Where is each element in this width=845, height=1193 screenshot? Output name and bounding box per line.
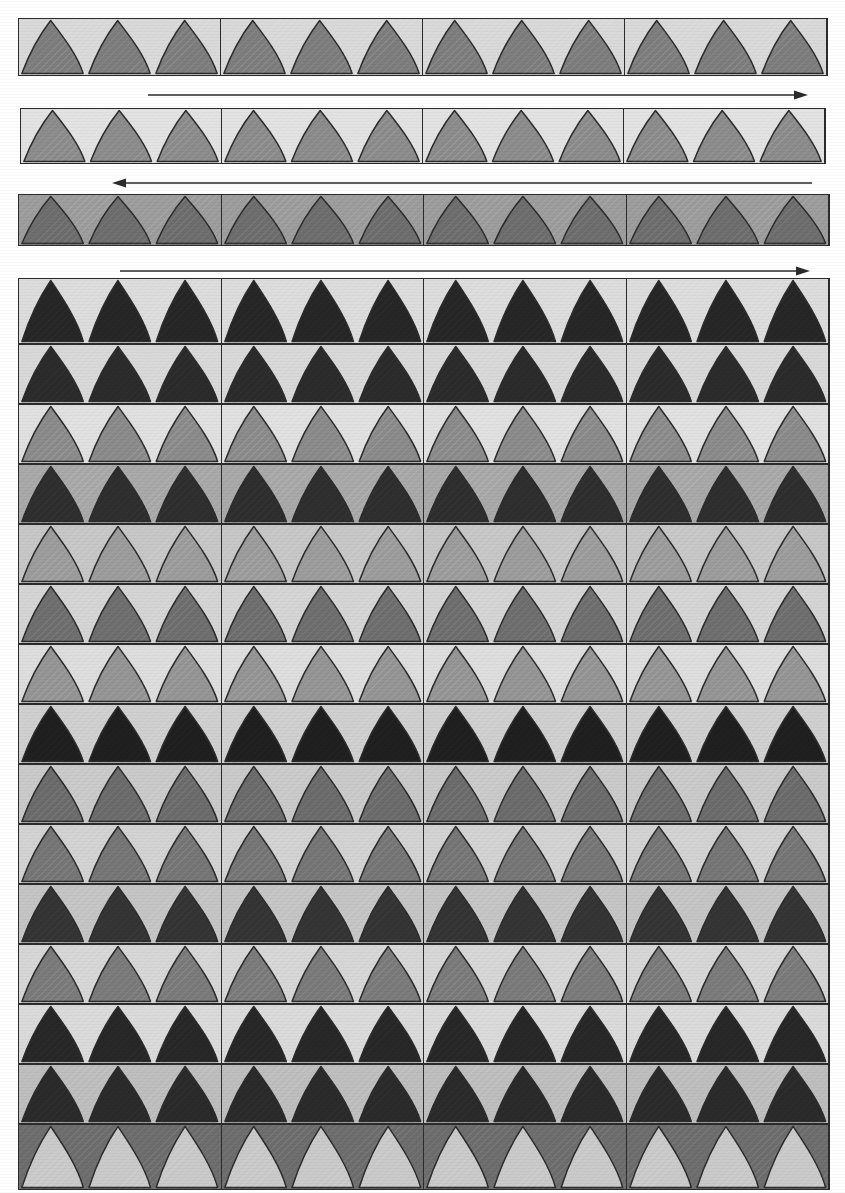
- grid-row-8: [18, 704, 830, 764]
- motif-segment: [627, 465, 830, 523]
- grid-row-1: [18, 278, 830, 344]
- motif-segment: [222, 945, 425, 1003]
- motif-segment: [627, 645, 830, 703]
- motif-segment: [19, 405, 222, 463]
- grid-row-13: [18, 1004, 830, 1064]
- motif-segment: [627, 1065, 830, 1123]
- grid-row-2: [18, 344, 830, 404]
- motif-segment: [19, 1005, 222, 1063]
- motif-segment: [627, 945, 830, 1003]
- motif-segment: [627, 705, 830, 763]
- motif-segment: [221, 19, 423, 75]
- motif-segment: [424, 465, 627, 523]
- motif-segment: [19, 945, 222, 1003]
- motif-segment: [424, 279, 627, 343]
- motif-segment: [424, 705, 627, 763]
- grid-row-5: [18, 524, 830, 584]
- motif-segment: [19, 19, 221, 75]
- motif-segment: [424, 945, 627, 1003]
- motif-segment: [627, 345, 830, 403]
- motif-segment: [19, 345, 222, 403]
- motif-segment: [424, 885, 627, 943]
- motif-segment: [19, 1065, 222, 1123]
- motif-segment: [222, 1005, 425, 1063]
- direction-arrow-left: [112, 176, 812, 190]
- motif-segment: [222, 825, 425, 883]
- motif-segment: [19, 1125, 222, 1189]
- figure-plate: [0, 0, 845, 1193]
- grid-row-11: [18, 884, 830, 944]
- motif-segment: [424, 1005, 627, 1063]
- motif-segment: [424, 1065, 627, 1123]
- top-band-3: [18, 194, 830, 246]
- grid-row-7: [18, 644, 830, 704]
- motif-segment: [222, 195, 425, 245]
- motif-segment: [625, 19, 827, 75]
- motif-segment: [222, 405, 425, 463]
- motif-segment: [624, 109, 825, 163]
- motif-segment: [424, 585, 627, 643]
- motif-segment: [423, 109, 624, 163]
- motif-segment: [424, 525, 627, 583]
- motif-segment: [627, 885, 830, 943]
- motif-segment: [424, 195, 627, 245]
- motif-segment: [19, 765, 222, 823]
- motif-segment: [627, 1125, 830, 1189]
- motif-segment: [222, 765, 425, 823]
- motif-segment: [222, 1065, 425, 1123]
- motif-segment: [424, 825, 627, 883]
- direction-arrow-right: [148, 88, 808, 102]
- grid-row-15: [18, 1124, 830, 1190]
- motif-segment: [222, 109, 423, 163]
- direction-arrow-right: [120, 264, 810, 278]
- motif-segment: [423, 19, 625, 75]
- motif-segment: [19, 705, 222, 763]
- motif-segment: [19, 585, 222, 643]
- motif-segment: [627, 1005, 830, 1063]
- grid-row-4: [18, 464, 830, 524]
- motif-segment: [627, 825, 830, 883]
- motif-segment: [222, 465, 425, 523]
- motif-segment: [19, 279, 222, 343]
- motif-segment: [222, 279, 425, 343]
- motif-segment: [627, 405, 830, 463]
- motif-segment: [222, 705, 425, 763]
- motif-segment: [19, 825, 222, 883]
- grid-row-9: [18, 764, 830, 824]
- top-band-1: [18, 18, 828, 76]
- motif-segment: [222, 345, 425, 403]
- motif-segment: [222, 585, 425, 643]
- motif-segment: [222, 1125, 425, 1189]
- motif-segment: [19, 465, 222, 523]
- motif-segment: [627, 279, 830, 343]
- motif-segment: [19, 645, 222, 703]
- motif-segment: [627, 525, 830, 583]
- motif-segment: [627, 195, 830, 245]
- top-band-2: [20, 108, 826, 164]
- motif-segment: [424, 345, 627, 403]
- motif-segment: [424, 405, 627, 463]
- motif-segment: [19, 525, 222, 583]
- motif-segment: [222, 645, 425, 703]
- motif-segment: [627, 585, 830, 643]
- motif-segment: [19, 195, 222, 245]
- motif-segment: [19, 885, 222, 943]
- grid-row-3: [18, 404, 830, 464]
- grid-row-12: [18, 944, 830, 1004]
- grid-row-10: [18, 824, 830, 884]
- motif-segment: [222, 885, 425, 943]
- motif-segment: [424, 765, 627, 823]
- grid-row-6: [18, 584, 830, 644]
- motif-segment: [424, 645, 627, 703]
- motif-segment: [21, 109, 222, 163]
- motif-segment: [424, 1125, 627, 1189]
- motif-segment: [222, 525, 425, 583]
- grid-row-14: [18, 1064, 830, 1124]
- motif-segment: [627, 765, 830, 823]
